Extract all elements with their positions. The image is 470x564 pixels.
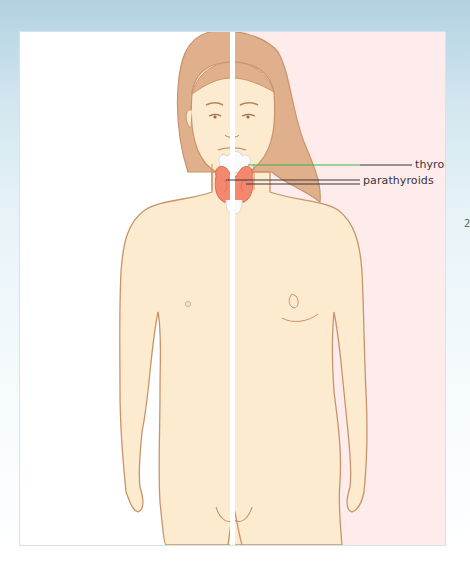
illustration-frame: thyroid parathyroids xyxy=(20,32,445,545)
center-divider xyxy=(230,32,235,545)
label-parathyroids: parathyroids xyxy=(363,174,434,187)
page-bottom-margin xyxy=(0,546,470,564)
label-thyroid: thyroid xyxy=(415,158,445,171)
body-illustration xyxy=(20,32,445,545)
page-edge-number-fragment: 2 xyxy=(464,218,470,229)
torso xyxy=(120,172,367,545)
